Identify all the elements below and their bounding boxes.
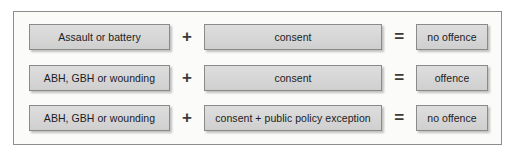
diagram-frame: Assault or battery + consent = no offenc…: [13, 11, 502, 145]
condition-box: consent: [204, 24, 382, 50]
equation-row: ABH, GBH or wounding + consent + public …: [14, 105, 501, 132]
plus-operator-icon: +: [170, 24, 204, 50]
equals-operator-icon: =: [382, 105, 416, 131]
plus-operator-icon: +: [170, 105, 204, 131]
equals-operator-icon: =: [382, 24, 416, 50]
equation-row: ABH, GBH or wounding + consent = offence: [14, 65, 501, 92]
equation-row: Assault or battery + consent = no offenc…: [14, 24, 501, 51]
condition-box: consent: [204, 65, 382, 91]
subject-box: ABH, GBH or wounding: [29, 65, 170, 91]
plus-operator-icon: +: [170, 65, 204, 91]
result-box: offence: [416, 65, 488, 91]
subject-box: ABH, GBH or wounding: [29, 105, 170, 131]
result-box: no offence: [416, 24, 488, 50]
equals-operator-icon: =: [382, 65, 416, 91]
condition-box: consent + public policy exception: [204, 105, 382, 131]
subject-box: Assault or battery: [29, 24, 170, 50]
result-box: no offence: [416, 105, 488, 131]
